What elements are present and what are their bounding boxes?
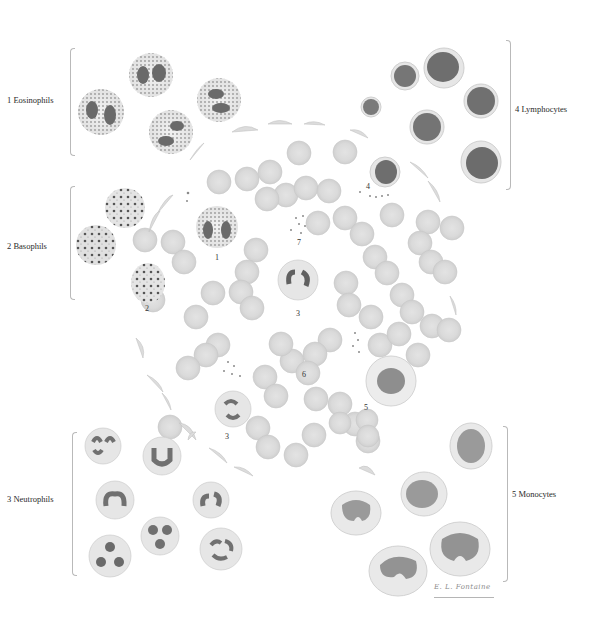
lymphocytes-bracket	[506, 40, 511, 190]
blood-smear-illustration: <@circle cx="0" cy="0" r="0"/> <@circle …	[0, 0, 605, 637]
basophils-label: 2 Basophils	[7, 241, 47, 251]
eosinophils-bracket	[70, 48, 75, 156]
smear-number-basophil: 2	[145, 304, 149, 313]
red-blood-cells: <@circle cx="0" cy="0" r="0"/> <@circle …	[133, 140, 464, 467]
lymphocyte-cells	[361, 48, 501, 187]
monocytes-label: 5 Monocytes	[512, 489, 556, 499]
monocytes-bracket	[503, 426, 508, 582]
smear-number-platelets: 7	[297, 238, 301, 247]
neutrophils-bracket	[72, 432, 77, 576]
blood-cell-plate: <@circle cx="0" cy="0" r="0"/> <@circle …	[0, 0, 605, 637]
neutrophils-label: 3 Neutrophils	[7, 494, 54, 504]
smear-number-monocyte: 5	[364, 403, 368, 412]
smear-number-lymphocite: 4	[366, 182, 370, 191]
eosinophil-cells	[78, 53, 241, 248]
monocyte-cells	[331, 356, 492, 596]
smear-number-neutrophil-lower: 3	[225, 432, 229, 441]
smear-number-eosinophil: 1	[215, 253, 219, 262]
signature-underline	[434, 597, 494, 598]
basophils-bracket	[70, 186, 75, 300]
eosinophils-label: 1 Eosinophils	[7, 95, 54, 105]
lymphocytes-label: 4 Lymphocytes	[515, 104, 567, 114]
smear-number-rbc: 6	[302, 370, 306, 379]
smear-number-neutrophil-upper: 3	[296, 309, 300, 318]
artist-signature: E. L. Fontaine	[434, 583, 491, 591]
